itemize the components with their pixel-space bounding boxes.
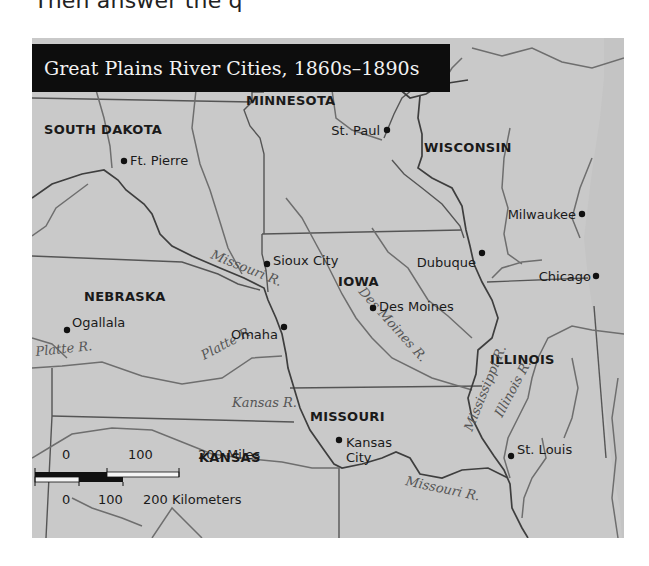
city-label: Dubuque — [417, 255, 476, 270]
city-dot — [479, 250, 485, 256]
city-label: St. Louis — [517, 442, 572, 457]
map: Great Plains River Cities, 1860s–1890s S… — [32, 38, 624, 538]
city-label: Milwaukee — [508, 207, 576, 222]
state-label-missouri: MISSOURI — [310, 409, 385, 424]
city-label: Chicago — [539, 269, 591, 284]
city-dot — [64, 327, 70, 333]
title-container: Great Plains River Cities, 1860s–1890s — [32, 38, 452, 98]
scale-bar-miles-black — [35, 472, 107, 477]
city-label: Omaha — [231, 327, 278, 342]
city-kansas-city: KansasCity — [336, 435, 392, 465]
city-dot — [579, 211, 585, 217]
city-label: St. Paul — [331, 123, 380, 138]
city-chicago: Chicago — [539, 269, 599, 284]
scale-km-0: 0 — [62, 492, 70, 507]
city-milwaukee: Milwaukee — [508, 207, 586, 222]
city-st-louis: St. Louis — [508, 442, 573, 459]
river-label-kansas-r: Kansas R. — [231, 395, 297, 410]
city-st-paul: St. Paul — [331, 123, 390, 138]
city-label: City — [346, 450, 372, 465]
city-dot — [593, 273, 599, 279]
city-dubuque: Dubuque — [417, 250, 485, 270]
state-label-nebraska: NEBRASKA — [84, 289, 166, 304]
scale-bar: 0 100 200 Miles 0 100 200 Kilometers — [35, 447, 260, 507]
scale-miles-200: 200 Miles — [198, 447, 260, 462]
city-label: Ogallala — [72, 315, 125, 330]
city-sioux-city: Sioux City — [264, 253, 339, 268]
lake-michigan — [584, 38, 624, 538]
river-label-des-moines-r: Des Moines R. — [355, 283, 430, 364]
city-dot — [370, 305, 376, 311]
state-label-minnesota: MINNESOTA — [246, 93, 335, 108]
scale-bar-km-black — [79, 477, 123, 482]
river-labels: Missouri R.Platte R.Platte R.Des Moines … — [34, 246, 534, 503]
scale-km-100: 100 — [98, 492, 123, 507]
city-ogallala: Ogallala — [64, 315, 125, 333]
map-title: Great Plains River Cities, 1860s–1890s — [32, 44, 450, 92]
state-label-south-dakota: SOUTH DAKOTA — [44, 122, 162, 137]
city-ft-pierre: Ft. Pierre — [121, 153, 188, 168]
state-label-iowa: IOWA — [338, 274, 379, 289]
state-borders — [32, 84, 606, 538]
city-dot — [384, 127, 390, 133]
scale-km-200: 200 Kilometers — [143, 492, 242, 507]
city-label: Sioux City — [273, 253, 339, 268]
city-dot — [281, 324, 287, 330]
map-canvas: Great Plains River Cities, 1860s–1890s S… — [32, 38, 624, 538]
city-dot — [121, 158, 127, 164]
scale-miles-0: 0 — [62, 447, 70, 462]
city-dot — [336, 437, 342, 443]
city-des-moines: Des Moines — [370, 299, 454, 314]
scale-bar-km-white — [35, 477, 79, 482]
city-label: Ft. Pierre — [130, 153, 188, 168]
scale-bar-miles-white — [107, 472, 179, 477]
city-dot — [508, 453, 514, 459]
instruction-text-cutoff: Then answer the q — [34, 0, 243, 13]
scale-miles-100: 100 — [128, 447, 153, 462]
city-label: Des Moines — [379, 299, 454, 314]
city-label: Kansas — [346, 435, 392, 450]
city-dot — [264, 261, 270, 267]
state-label-wisconsin: WISCONSIN — [424, 140, 512, 155]
